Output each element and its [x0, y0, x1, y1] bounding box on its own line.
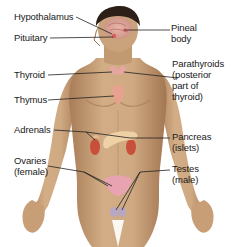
label-pineal-2: body	[171, 34, 191, 45]
label-pancreas-1: Pancreas	[172, 132, 211, 143]
label-testes-1: Testes	[172, 164, 199, 175]
left-kidney	[90, 139, 100, 155]
brain	[104, 17, 132, 39]
label-thyroid: Thyroid	[14, 70, 45, 81]
label-ovaries-1: Ovaries	[14, 156, 46, 167]
label-adrenals: Adrenals	[14, 125, 51, 136]
endocrine-diagram: Hypothalamus Pituitary Pineal body Thyro…	[0, 0, 236, 247]
label-parathyroids-3: part of	[172, 81, 198, 92]
label-parathyroids-2: (posterior	[172, 70, 211, 81]
label-thymus: Thymus	[14, 95, 47, 106]
right-testis	[118, 207, 126, 217]
label-pancreas-2: (islets)	[172, 143, 199, 154]
label-parathyroids-1: Parathyroids	[172, 59, 224, 70]
label-ovaries-2: (female)	[14, 167, 48, 178]
right-kidney	[126, 139, 136, 155]
label-pineal-1: Pineal	[171, 23, 197, 34]
label-hypothalamus: Hypothalamus	[14, 12, 74, 23]
label-testes-2: (male)	[172, 175, 198, 186]
label-pituitary: Pituitary	[14, 33, 47, 44]
pituitary-gland	[112, 34, 116, 38]
label-parathyroids-4: thyroid)	[172, 92, 203, 103]
